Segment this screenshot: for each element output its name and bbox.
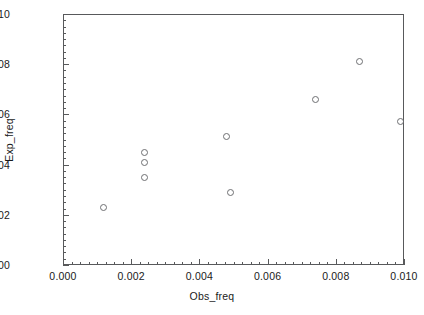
y-minor-tick bbox=[63, 259, 66, 260]
scatter-plot-figure: 0.0000.0020.0040.0060.0080.010 0.0000.00… bbox=[0, 0, 424, 315]
y-minor-tick bbox=[63, 102, 66, 103]
y-major-tick bbox=[63, 265, 69, 266]
y-minor-tick bbox=[63, 152, 66, 153]
y-minor-tick bbox=[63, 77, 66, 78]
x-tick-label: 0.004 bbox=[186, 270, 213, 282]
y-minor-tick bbox=[63, 140, 66, 141]
y-minor-tick bbox=[63, 33, 66, 34]
y-major-tick bbox=[63, 215, 69, 216]
y-minor-tick bbox=[63, 227, 66, 228]
y-axis-title-wrapper: Exp_freq bbox=[8, 14, 34, 265]
x-axis-title: Obs_freq bbox=[0, 290, 424, 302]
y-minor-tick bbox=[63, 133, 66, 134]
y-minor-tick bbox=[63, 190, 66, 191]
x-major-tick bbox=[404, 259, 405, 265]
y-minor-tick bbox=[63, 70, 66, 71]
y-minor-tick bbox=[63, 183, 66, 184]
y-major-tick bbox=[63, 165, 69, 166]
y-minor-tick bbox=[63, 240, 66, 241]
y-major-tick bbox=[63, 114, 69, 115]
y-minor-tick bbox=[63, 209, 66, 210]
y-minor-tick bbox=[63, 89, 66, 90]
y-minor-tick bbox=[63, 27, 66, 28]
x-tick-label: 0.008 bbox=[322, 270, 349, 282]
y-minor-tick bbox=[63, 121, 66, 122]
y-minor-tick bbox=[63, 52, 66, 53]
y-minor-tick bbox=[63, 234, 66, 235]
y-minor-tick bbox=[63, 58, 66, 59]
y-minor-tick bbox=[63, 39, 66, 40]
y-major-tick bbox=[63, 64, 69, 65]
y-minor-tick bbox=[63, 202, 66, 203]
y-minor-tick bbox=[63, 96, 66, 97]
y-axis-ticks bbox=[63, 14, 404, 265]
y-minor-tick bbox=[63, 246, 66, 247]
y-minor-tick bbox=[63, 252, 66, 253]
y-minor-tick bbox=[63, 20, 66, 21]
y-minor-tick bbox=[63, 83, 66, 84]
x-tick-label: 0.002 bbox=[118, 270, 145, 282]
x-tick-label: 0.000 bbox=[49, 270, 76, 282]
y-minor-tick bbox=[63, 171, 66, 172]
y-minor-tick bbox=[63, 196, 66, 197]
y-minor-tick bbox=[63, 146, 66, 147]
y-minor-tick bbox=[63, 177, 66, 178]
y-major-tick bbox=[63, 14, 69, 15]
x-tick-label: 0.010 bbox=[390, 270, 417, 282]
y-axis-title: Exp_freq bbox=[3, 118, 15, 162]
y-minor-tick bbox=[63, 158, 66, 159]
y-minor-tick bbox=[63, 127, 66, 128]
y-minor-tick bbox=[63, 108, 66, 109]
y-minor-tick bbox=[63, 45, 66, 46]
x-tick-label: 0.006 bbox=[254, 270, 281, 282]
y-minor-tick bbox=[63, 221, 66, 222]
